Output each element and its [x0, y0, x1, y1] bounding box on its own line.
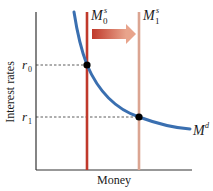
shift-right-arrow-icon	[92, 24, 136, 44]
money-supply-0-label: M s 0	[90, 6, 108, 26]
x-axis-title: Money	[97, 173, 131, 187]
svg-text:1: 1	[155, 16, 160, 26]
svg-text:s: s	[156, 6, 159, 15]
svg-text:s: s	[104, 6, 107, 15]
svg-text:M: M	[192, 123, 206, 138]
money-market-chart: M s 0 M s 1 M d r 0 r 1 Interest rates M…	[0, 0, 213, 191]
svg-text:M: M	[142, 8, 156, 23]
svg-text:1: 1	[28, 117, 32, 126]
r1-tick-label: r 1	[22, 109, 32, 126]
svg-text:0: 0	[103, 16, 108, 26]
money-supply-1-label: M s 1	[142, 6, 160, 26]
money-demand-label: M d	[192, 121, 210, 138]
r0-tick-label: r 0	[22, 57, 32, 74]
money-demand-curve	[74, 12, 190, 129]
svg-text:d: d	[205, 121, 210, 130]
equilibrium-point-1	[135, 113, 142, 120]
svg-text:0: 0	[28, 65, 32, 74]
y-axis-title: Interest rates	[3, 61, 17, 123]
svg-text:M: M	[90, 8, 104, 23]
equilibrium-point-0	[83, 61, 90, 68]
